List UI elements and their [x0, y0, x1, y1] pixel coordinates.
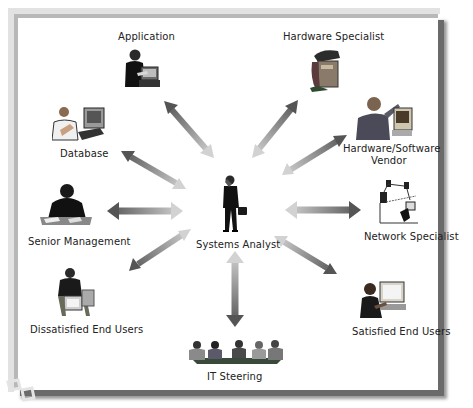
arrow-it-steering — [226, 251, 244, 327]
arrow-satisfied-end-users — [274, 236, 337, 274]
person-with-computer-icon — [52, 106, 106, 146]
node-label-application: Application — [118, 31, 175, 42]
hardware-repair-icon — [308, 48, 344, 93]
watermark-stamp — [4, 378, 38, 404]
frustrated-user-icon — [54, 266, 96, 318]
node-label-network-specialist: Network Specialist — [364, 231, 459, 242]
node-label-hardware-specialist: Hardware Specialist — [283, 31, 384, 42]
node-label-vendor-line2: Vendor — [371, 155, 407, 166]
node-label-senior-management: Senior Management — [28, 236, 131, 247]
meeting-table-icon — [185, 338, 289, 366]
network-diagram-icon — [378, 178, 420, 226]
person-at-computer-icon — [123, 47, 161, 89]
arrow-hardware-specialist — [252, 100, 298, 158]
businessman-phone-briefcase-icon — [219, 174, 249, 234]
center-label: Systems Analyst — [196, 239, 280, 250]
node-label-it-steering: IT Steering — [207, 371, 263, 382]
happy-user-computer-icon — [360, 280, 408, 320]
node-label-satisfied-end-users: Satisfied End Users — [352, 326, 450, 337]
arrow-application — [164, 101, 214, 158]
arrow-network-specialist — [285, 201, 361, 219]
node-label-database: Database — [60, 148, 109, 159]
node-label-vendor-line1: Hardware/Software — [343, 143, 440, 154]
arrow-vendor — [282, 135, 347, 175]
arrow-dissatisfied-end-users — [129, 229, 191, 271]
vendor-with-computer-icon — [354, 96, 414, 142]
executive-at-desk-icon — [40, 183, 92, 225]
arrow-senior-management — [107, 202, 183, 220]
arrow-database — [121, 151, 186, 189]
node-label-dissatisfied-end-users: Dissatisfied End Users — [30, 324, 143, 335]
